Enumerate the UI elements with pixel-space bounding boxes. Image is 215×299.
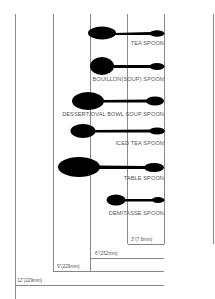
label-table-spoon: TABLE SPOON <box>124 175 164 181</box>
tea-spoon-icon <box>88 27 165 40</box>
scale-line-6in <box>91 258 164 259</box>
scale-label-12in: 12"(229mm) <box>17 278 42 283</box>
demitasse-spoon-icon <box>107 195 165 206</box>
bouillon-spoon-icon <box>90 57 165 75</box>
label-demitasse-spoon: DEMITASSE SPOON <box>109 210 164 216</box>
scale-line-9in <box>54 271 164 272</box>
label-tea-spoon: TEA SPOON <box>131 40 164 46</box>
dessert-spoon-icon <box>72 92 164 110</box>
table-spoon-icon <box>58 157 164 177</box>
iced-tea-spoon-icon <box>71 124 166 138</box>
scale-label-9in: 9"(229mm) <box>57 264 80 269</box>
label-dessert-spoon: DESSERT/OVAL BOWL SOUP SPOON <box>62 111 164 117</box>
scale-line-3in <box>128 244 164 245</box>
label-bouillon-spoon: BOUILLON(SOUP) SPOON <box>92 76 164 82</box>
scale-label-3in: 3"(7.6mm) <box>131 237 152 242</box>
label-iced-tea-spoon: ICED TEA SPOON <box>115 140 164 146</box>
scale-label-6in: 6"(152mm) <box>95 251 118 256</box>
scale-line-12in <box>16 285 164 286</box>
